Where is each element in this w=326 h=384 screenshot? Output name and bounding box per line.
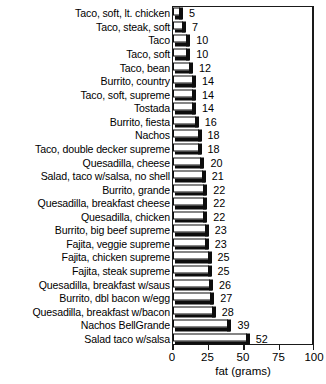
category-label: Burrito, fiesta: [110, 116, 170, 127]
x-tick: [172, 345, 174, 350]
bar-end-cap: [203, 184, 207, 196]
x-tick: [243, 345, 245, 350]
bar-row: Burrito, grande22: [0, 182, 326, 197]
category-label: Burrito, dbl bacon w/egg: [59, 293, 170, 304]
bar-end-cap: [179, 8, 183, 20]
bar-face: [173, 143, 199, 151]
category-label: Quesadilla, breakfast w/bacon: [32, 306, 170, 317]
bar-face: [173, 320, 228, 328]
bar-face: [173, 35, 187, 43]
bar-row: Quesadilla, breakfast w/saus26: [0, 277, 326, 292]
bar-row: Burrito, fiesta16: [0, 114, 326, 129]
bar-face: [173, 89, 193, 97]
bar-row: Nachos18: [0, 128, 326, 143]
bar-value-label: 16: [205, 116, 217, 127]
category-label: Burrito, country: [101, 76, 170, 87]
bar-row: Taco, soft10: [0, 47, 326, 62]
bar-row: Taco, soft, lt. chicken5: [0, 6, 326, 21]
bar: [173, 184, 210, 195]
bar-value-label: 26: [219, 279, 231, 290]
category-label: Fajita, chicken supreme: [62, 252, 170, 263]
bar-value-label: 10: [196, 35, 208, 46]
bar-end-cap: [198, 143, 202, 155]
bar: [173, 252, 215, 263]
category-label: Quesadilla, chicken: [81, 211, 170, 222]
bar-face: [173, 103, 193, 111]
category-label: Fajita, steak supreme: [72, 265, 170, 276]
bar: [173, 143, 205, 154]
bar-end-cap: [203, 211, 207, 223]
bar-end-cap: [202, 171, 206, 183]
bar-value-label: 18: [208, 143, 220, 154]
bar-row: Quesadilla, cheese20: [0, 155, 326, 170]
bar-row: Burrito, country14: [0, 74, 326, 89]
bar-face: [173, 198, 204, 206]
bar-end-cap: [205, 238, 209, 250]
bar-row: Fajita, chicken supreme25: [0, 250, 326, 265]
bar-face: [173, 116, 196, 124]
bar-end-cap: [182, 21, 186, 33]
category-label: Burrito, grande: [102, 184, 170, 195]
bar-value-label: 23: [215, 225, 227, 236]
category-label: Quesadilla, breakfast w/saus: [39, 279, 170, 290]
bar-end-cap: [192, 89, 196, 101]
x-tick-label: 100: [304, 351, 323, 364]
bar: [173, 320, 234, 331]
bar: [173, 157, 207, 168]
bar: [173, 103, 199, 114]
bar: [173, 265, 215, 276]
bar-value-label: 10: [196, 49, 208, 60]
x-axis-title: fat (grams): [172, 365, 314, 378]
bar-face: [173, 279, 210, 287]
bar: [173, 198, 210, 209]
bar-value-label: 14: [202, 89, 214, 100]
bar: [173, 333, 253, 344]
bar-end-cap: [246, 333, 250, 345]
bar-face: [173, 293, 211, 301]
bar-end-cap: [209, 279, 213, 291]
bar-row: Quesadilla, breakfast cheese22: [0, 196, 326, 211]
bar-face: [173, 157, 201, 165]
bar-value-label: 39: [237, 320, 249, 331]
bar-end-cap: [189, 62, 193, 74]
bar-end-cap: [186, 35, 190, 47]
bar-row: Nachos BellGrande39: [0, 318, 326, 333]
category-label: Taco, soft, lt. chicken: [75, 8, 170, 19]
bar-face: [173, 252, 209, 260]
category-label: Nachos: [135, 130, 170, 141]
bar: [173, 76, 199, 87]
bar-face: [173, 76, 193, 84]
bar-value-label: 22: [213, 198, 225, 209]
bar-row: Burrito, big beef supreme23: [0, 223, 326, 238]
bar-end-cap: [186, 49, 190, 61]
bar: [173, 116, 202, 127]
bar-end-cap: [227, 320, 231, 332]
bar-row: Fajita, steak supreme25: [0, 264, 326, 279]
category-label: Quesadilla, cheese: [83, 157, 170, 168]
category-label: Taco, bean: [120, 62, 170, 73]
bar-value-label: 7: [192, 21, 198, 32]
category-label: Burrito, big beef supreme: [55, 225, 170, 236]
bar-end-cap: [195, 116, 199, 128]
bar-row: Quesadilla, chicken22: [0, 209, 326, 224]
category-label: Salad, taco w/salsa, no shell: [41, 171, 170, 182]
x-tick-label: 50: [237, 351, 250, 364]
bar-row: Taco, soft, supreme14: [0, 87, 326, 102]
bar-value-label: 14: [202, 76, 214, 87]
bar-face: [173, 171, 203, 179]
bar-face: [173, 62, 190, 70]
bar-end-cap: [212, 306, 216, 318]
bar-value-label: 22: [213, 184, 225, 195]
bar-end-cap: [192, 103, 196, 115]
bar-row: Taco, double decker supreme18: [0, 142, 326, 157]
category-label: Taco, double decker supreme: [35, 143, 170, 154]
bar-value-label: 22: [213, 211, 225, 222]
bar-face: [173, 333, 247, 341]
bar-end-cap: [205, 225, 209, 237]
bar-face: [173, 211, 204, 219]
bar: [173, 211, 210, 222]
bar-row: Salad, taco w/salsa, no shell21: [0, 169, 326, 184]
bar-value-label: 27: [220, 293, 232, 304]
bar-value-label: 12: [199, 62, 211, 73]
x-axis: 0255075100: [172, 345, 314, 365]
